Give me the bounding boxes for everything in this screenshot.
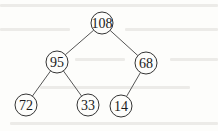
node-label: 14	[114, 99, 128, 114]
tree-node-root: 108	[91, 12, 113, 34]
tree-nodes: 108 95 68 72 33 14	[15, 12, 157, 117]
tree-node-left-left: 72	[15, 94, 37, 116]
binary-tree-diagram: 108 95 68 72 33 14	[0, 0, 218, 131]
tree-node-right-left: 14	[110, 95, 132, 117]
tree-node-left: 95	[46, 51, 68, 73]
tree-edge	[127, 73, 141, 97]
tree-edge	[63, 71, 81, 96]
node-label: 33	[81, 98, 95, 113]
tree-node-right: 68	[135, 52, 157, 74]
node-label: 68	[139, 56, 153, 71]
tree-edge	[65, 30, 93, 55]
node-label: 108	[92, 16, 113, 31]
tree-edge	[32, 71, 50, 96]
node-label: 72	[19, 98, 33, 113]
tree-edge	[110, 30, 138, 55]
node-label: 95	[50, 55, 64, 70]
tree-node-left-right: 33	[77, 94, 99, 116]
